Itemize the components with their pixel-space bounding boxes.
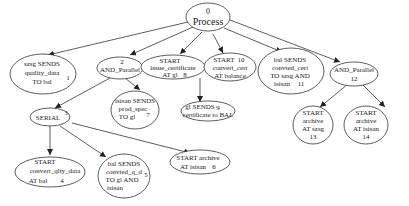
edge-0-11 [224,28,282,52]
node-13-line-2: archive [303,117,324,125]
node-11-line-1: bal SENDS [274,56,307,64]
node-11-line-4: isisan [274,80,290,88]
node-3-label: SERIAL [36,114,61,122]
node-3-number: 3 [65,110,68,116]
node-7-line-3: TO gl [119,113,135,121]
node-1-szsg-sends[interactable]: szsg SENDS quality_data TO bal 1 [10,54,76,94]
node-7-isisan-sends[interactable]: isisan SENDS prod_spec TO gl 7 [111,91,159,129]
node-5-number: 5 [144,171,148,179]
node-10-number: 10 [238,56,246,64]
node-12-and-parallel[interactable]: AND_Parallel 12 [330,62,378,86]
node-13-start-archive-szsg[interactable]: START archive AT szsg 13 [293,106,333,144]
edge-2-7 [125,78,140,90]
node-11-line-3: TO szsg AND [270,72,310,80]
node-5-bal-sends[interactable]: bal SENDS convted_q_d TO gl AND isisan 5 [98,154,150,198]
node-11-number: 11 [298,80,305,88]
node-4-start-convert-qlty[interactable]: START convert_qlty_data AT bal 4 [15,157,85,187]
node-6-line-1: START archive [176,154,219,162]
node-12-label: AND_Parallel [334,66,374,74]
node-6-start-archive-isisan[interactable]: START archive AT isisan 6 [170,150,230,174]
node-11-line-2: convted_cert [272,64,308,72]
node-9-line-1: gl SENDS [185,103,214,111]
node-0-label: Process [193,16,224,27]
node-3-serial[interactable]: SERIAL 3 [30,108,70,126]
node-4-number: 4 [60,177,64,185]
edges [48,20,385,157]
node-7-line-1: isisan SENDS [115,97,155,105]
node-5-line-3: TO gl AND [106,176,139,184]
node-13-line-1: START [302,109,324,117]
node-7-number: 7 [146,111,150,119]
node-11-bal-sends[interactable]: bal SENDS convted_cert TO szsg AND isisa… [258,48,324,94]
edge-12-13 [320,84,348,107]
node-14-number: 14 [363,133,371,141]
node-4-line-3: AT bal [29,177,48,185]
node-8-line-3: AT gl [162,71,178,79]
node-2-and-parallel[interactable]: 2 AND_Parallel [97,57,143,79]
node-10-line-2: convert_cert [213,64,248,72]
node-13-number: 13 [310,133,318,141]
node-10-line-1: START [213,56,235,64]
node-14-line-1: START [355,109,377,117]
node-0-process[interactable]: 0 Process [186,3,230,31]
node-14-line-3: AT isisan [353,125,380,133]
node-8-number: 8 [183,71,187,79]
node-5-line-1: bal SENDS [108,160,141,168]
edge-12-14 [362,84,385,107]
node-13-line-3: AT szsg [302,125,325,133]
node-2-number: 2 [120,58,124,66]
edge-0-10 [213,34,223,53]
node-6-number: 6 [212,163,216,171]
node-6-line-2: AT isisan [180,163,207,171]
node-4-line-2: convert_qlty_data [30,167,81,175]
node-8-start-issue-certificate[interactable]: START archive START issue_certificate AT… [141,55,205,79]
node-2-label: AND_Parallel [100,66,140,74]
node-9-gl-sends[interactable]: gl SENDS 9 certificate to BAL [181,101,235,121]
node-1-line-3: TO bal [32,78,52,86]
edge-0-8 [180,32,202,54]
node-14-start-archive-isisan[interactable]: START archive AT isisan 14 [344,106,388,144]
node-9-line-2: certificate to BAL [183,111,234,119]
edge-3-5 [60,126,106,157]
node-14-line-2: archive [356,117,377,125]
node-7-line-2: prod_spec [119,105,148,113]
node-5-line-2: convted_q_d [106,168,143,176]
node-0-number: 0 [206,7,210,16]
node-12-number: 12 [351,75,359,83]
node-1-line-1: szsg SENDS [24,60,60,68]
node-10-line-3: AT balance [214,72,246,80]
node-1-line-2: quality_data [25,69,60,77]
process-tree-diagram: 0 Process szsg SENDS quality_data TO bal… [0,0,409,206]
node-5-line-4: isisan [107,184,123,192]
node-10-start-convert-cert[interactable]: START 10 convert_cert AT balance [204,53,256,81]
node-1-number: 1 [66,74,70,82]
node-4-line-1: START [34,158,56,166]
